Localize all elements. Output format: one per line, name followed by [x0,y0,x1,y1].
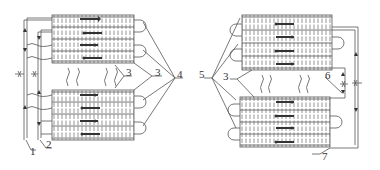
left-heat-exchanger [15,15,183,150]
label-7: 7 [322,151,328,162]
schematic-drawing [0,0,380,170]
label-4: 4 [177,69,183,80]
right-heat-exchanger [204,15,362,154]
label-3b: 3 [155,67,161,78]
label-1: 1 [30,146,36,157]
label-2: 2 [46,139,52,150]
diagram-canvas: 1 2 3 3 4 5 3 6 7 [0,0,380,170]
label-6: 6 [325,70,331,81]
label-3a: 3 [126,67,132,78]
label-3c: 3 [223,71,229,82]
label-5: 5 [199,69,205,80]
